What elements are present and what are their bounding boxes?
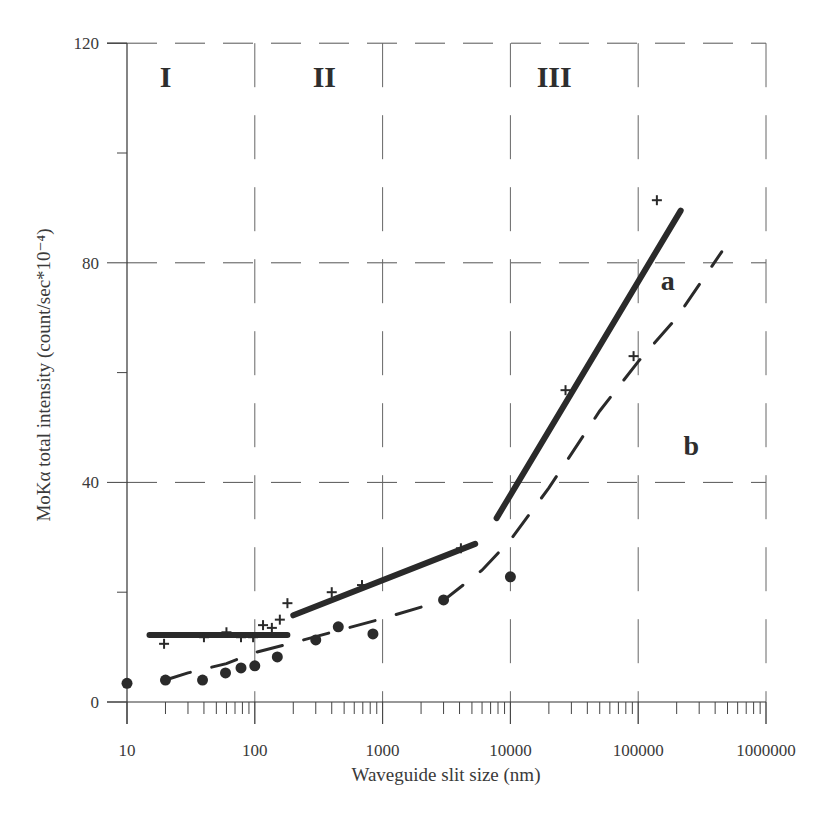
fit-line-b — [166, 252, 722, 680]
annotation-III: III — [537, 60, 572, 93]
data-point-a — [275, 615, 285, 625]
x-axis-label: Waveguide slit size (nm) — [352, 764, 541, 786]
axes: 04080120101001000100001000001000000 — [74, 34, 796, 760]
x-tick-label: 100 — [242, 741, 268, 760]
y-tick-label: 0 — [91, 693, 100, 712]
data-point-a — [282, 598, 292, 608]
data-point-b — [236, 662, 247, 673]
y-tick-label: 120 — [74, 34, 100, 53]
data-point-a — [258, 620, 268, 630]
data-point-a — [629, 351, 639, 361]
data-point-b — [333, 621, 344, 632]
x-tick-label: 100000 — [613, 741, 664, 760]
fit-lines — [150, 211, 722, 680]
annotation-b: b — [683, 430, 699, 461]
data-point-b — [122, 678, 133, 689]
y-tick-label: 40 — [82, 473, 99, 492]
annotations: IIIIIIab — [160, 60, 699, 461]
y-tick-label: 80 — [82, 254, 99, 273]
data-point-b — [197, 675, 208, 686]
chart-container: 04080120101001000100001000001000000 IIII… — [0, 0, 833, 815]
data-point-b — [160, 675, 171, 686]
x-tick-label: 10 — [119, 741, 136, 760]
annotation-I: I — [160, 60, 172, 93]
chart-svg: 04080120101001000100001000001000000 IIII… — [0, 0, 833, 815]
data-point-b — [249, 660, 260, 671]
x-tick-label: 10000 — [489, 741, 532, 760]
annotation-a: a — [661, 265, 675, 296]
data-point-b — [505, 571, 516, 582]
x-tick-label: 1000000 — [736, 741, 796, 760]
data-point-a — [159, 639, 169, 649]
data-point-b — [220, 667, 231, 678]
data-point-b — [438, 594, 449, 605]
data-point-b — [367, 628, 378, 639]
y-axis-label: MoKα total intensity (count/sec*10⁻⁴) — [33, 228, 55, 521]
data-point-a — [267, 623, 277, 633]
data-point-a — [652, 195, 662, 205]
data-point-b — [272, 651, 283, 662]
fit-line-a — [293, 544, 475, 615]
annotation-II: II — [313, 60, 336, 93]
x-tick-label: 1000 — [366, 741, 400, 760]
fit-line-a — [497, 211, 681, 518]
data-point-b — [310, 634, 321, 645]
grid-lines — [127, 43, 766, 724]
